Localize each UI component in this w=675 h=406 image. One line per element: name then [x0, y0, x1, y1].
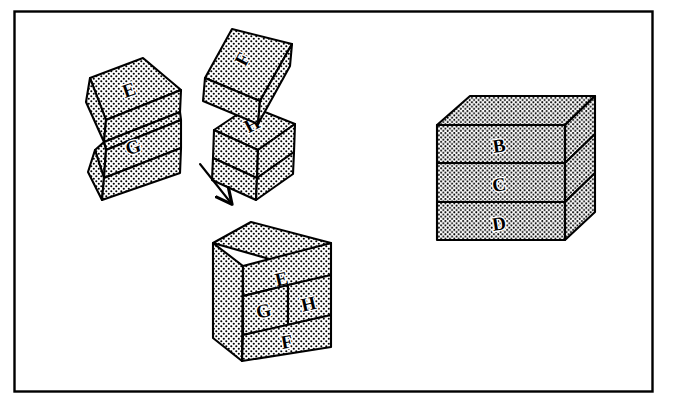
- right-cube: B C D: [437, 96, 595, 240]
- cube-assembly-figure: E G: [0, 0, 675, 406]
- figure-canvas: E G: [0, 0, 675, 406]
- assembled-block: E G H F: [213, 222, 331, 361]
